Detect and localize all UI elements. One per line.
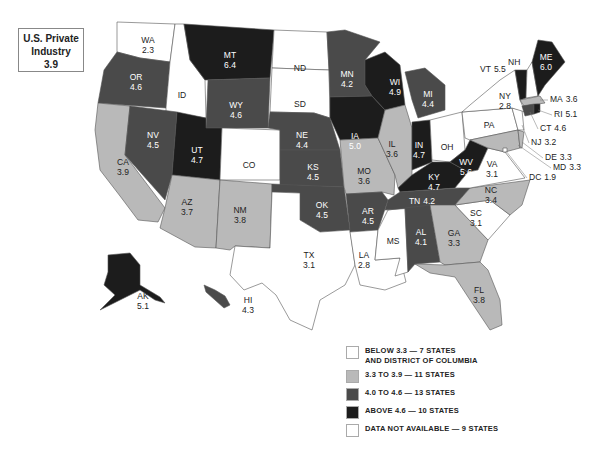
svg-text:PA: PA	[484, 120, 495, 130]
svg-text:WY4.6: WY4.6	[229, 100, 243, 120]
state-AK[interactable]	[100, 253, 165, 310]
swatch-below	[346, 346, 359, 359]
svg-text:AL4.1: AL4.1	[415, 227, 427, 247]
svg-text:NY2.8: NY2.8	[499, 91, 511, 111]
svg-text:OR4.6: OR4.6	[130, 72, 143, 92]
svg-text:MS: MS	[387, 236, 400, 246]
svg-text:SD: SD	[294, 99, 306, 109]
svg-text:DE3.3: DE3.3	[545, 152, 572, 162]
svg-text:AR4.5: AR4.5	[362, 206, 374, 226]
legend-item-below: BELOW 3.3 — 7 STATESAND DISTRICT OF COLU…	[346, 346, 498, 365]
svg-text:FL3.8: FL3.8	[473, 285, 485, 305]
svg-text:WI4.9: WI4.9	[389, 77, 401, 97]
legend-item-mid: 4.0 TO 4.6 — 13 STATES	[346, 388, 498, 401]
svg-text:KY4.7: KY4.7	[428, 172, 440, 192]
state-FL[interactable]	[415, 262, 502, 330]
svg-text:NE4.4: NE4.4	[296, 130, 308, 150]
svg-text:NV4.5: NV4.5	[147, 130, 159, 150]
us-choropleth-map: WA2.3 OR4.6 CA3.9 ID NV4.5 MT6.4 WY4.6 U…	[0, 0, 599, 340]
svg-text:AZ3.7: AZ3.7	[181, 197, 193, 217]
svg-text:CO: CO	[243, 160, 256, 170]
legend: BELOW 3.3 — 7 STATESAND DISTRICT OF COLU…	[346, 346, 498, 442]
swatch-high	[346, 406, 359, 419]
svg-text:MI4.4: MI4.4	[422, 89, 434, 109]
svg-text:KS4.5: KS4.5	[307, 162, 319, 182]
swatch-mid	[346, 388, 359, 401]
svg-text:NJ3.2: NJ3.2	[531, 137, 556, 147]
svg-text:GA3.3: GA3.3	[448, 228, 461, 248]
svg-text:MO3.6: MO3.6	[357, 166, 371, 186]
svg-text:MT6.4: MT6.4	[224, 50, 236, 70]
svg-text:NC3.4: NC3.4	[485, 185, 497, 205]
svg-text:RI5.1: RI5.1	[554, 109, 578, 119]
svg-text:VA3.1: VA3.1	[486, 159, 498, 179]
swatch-low	[346, 370, 359, 383]
svg-text:UT4.7: UT4.7	[191, 145, 203, 165]
state-CO[interactable]	[220, 128, 280, 180]
svg-text:VT5.5: VT5.5	[480, 64, 506, 74]
state-NY[interactable]	[462, 70, 525, 112]
state-CT[interactable]	[522, 104, 534, 116]
svg-text:SC3.1: SC3.1	[470, 208, 482, 228]
svg-text:AK5.1: AK5.1	[137, 291, 149, 311]
svg-text:LA2.8: LA2.8	[358, 250, 370, 270]
svg-text:WV5.6: WV5.6	[459, 157, 473, 177]
svg-text:CA3.9: CA3.9	[117, 157, 129, 177]
svg-text:NM3.8: NM3.8	[233, 205, 246, 225]
svg-text:WA2.3: WA2.3	[141, 35, 155, 55]
legend-item-na: DATA NOT AVAILABLE — 9 STATES	[346, 424, 498, 437]
svg-text:HI4.3: HI4.3	[242, 295, 254, 315]
svg-text:MN4.2: MN4.2	[340, 69, 353, 89]
svg-text:MA3.6: MA3.6	[550, 94, 578, 104]
svg-text:ND: ND	[294, 63, 306, 73]
state-SD[interactable]	[270, 68, 330, 118]
svg-text:ME6.0: ME6.0	[540, 52, 553, 72]
svg-text:DC1.9: DC1.9	[529, 172, 556, 182]
svg-text:CT4.6: CT4.6	[540, 123, 566, 133]
legend-item-low: 3.3 TO 3.9 — 11 STATES	[346, 370, 498, 383]
svg-text:NH: NH	[508, 57, 520, 67]
state-HI[interactable]	[204, 285, 230, 308]
legend-item-high: ABOVE 4.6 — 10 STATES	[346, 406, 498, 419]
svg-text:TX3.1: TX3.1	[303, 250, 315, 270]
svg-text:OH: OH	[441, 142, 454, 152]
swatch-na	[346, 424, 359, 437]
svg-text:ID: ID	[178, 90, 187, 100]
svg-text:OK4.5: OK4.5	[316, 200, 329, 220]
svg-text:MD3.3: MD3.3	[553, 162, 581, 172]
state-RI[interactable]	[534, 104, 540, 114]
